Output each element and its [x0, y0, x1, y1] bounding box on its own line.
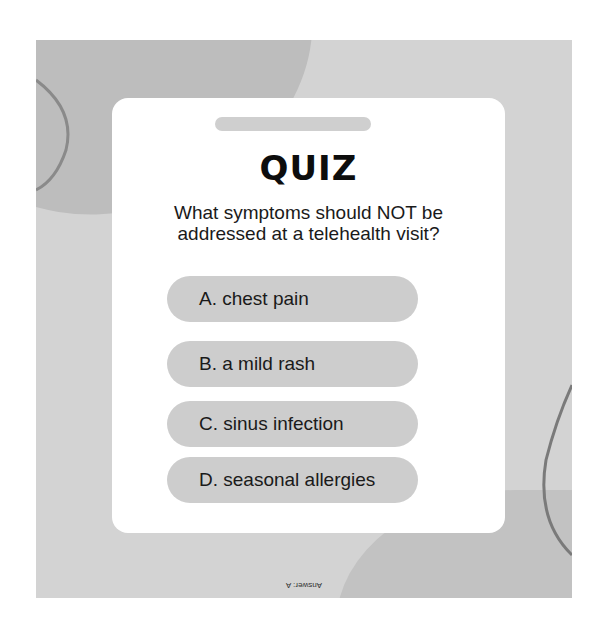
quiz-title: QUIZ	[112, 148, 505, 188]
option-c[interactable]: C. sinus infection	[167, 401, 418, 447]
option-b[interactable]: B. a mild rash	[167, 341, 418, 387]
quiz-card: QUIZ What symptoms should NOT be address…	[112, 98, 505, 533]
upside-down-answer: Answer: A	[36, 581, 572, 590]
card-top-bar	[215, 117, 371, 131]
option-a[interactable]: A. chest pain	[167, 276, 418, 322]
quiz-background-panel: QUIZ What symptoms should NOT be address…	[36, 40, 572, 598]
quiz-question: What symptoms should NOT be addressed at…	[152, 202, 465, 244]
option-d[interactable]: D. seasonal allergies	[167, 457, 418, 503]
